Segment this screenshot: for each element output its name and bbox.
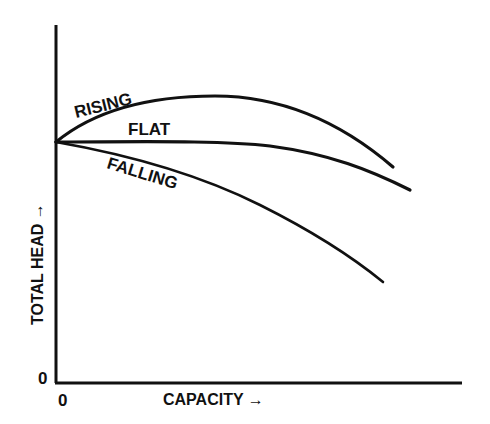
- pump-curve-chart: RISING FLAT FALLING TOTAL HEAD → CAPACIT…: [0, 0, 490, 424]
- y-axis-label: TOTAL HEAD →: [29, 203, 46, 325]
- x-zero-label: 0: [58, 391, 67, 410]
- falling-label: FALLING: [105, 154, 180, 193]
- flat-label: FLAT: [128, 120, 171, 139]
- rising-label: RISING: [72, 89, 133, 122]
- x-axis-label: CAPACITY →: [163, 391, 264, 408]
- falling-curve: [56, 142, 383, 282]
- y-zero-label: 0: [38, 369, 47, 388]
